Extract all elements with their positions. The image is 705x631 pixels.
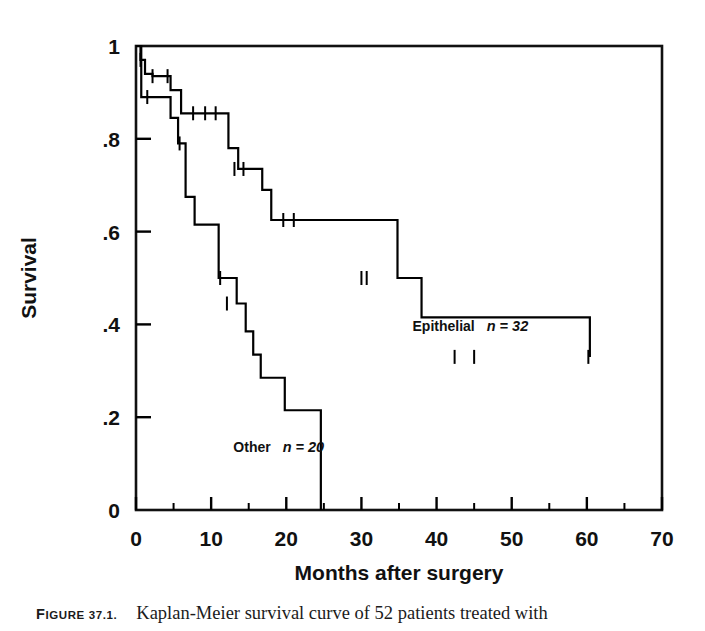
series-layer xyxy=(136,46,590,510)
y-tick-label-0p2: .2 xyxy=(102,406,120,429)
x-tick-label-0: 0 xyxy=(130,527,142,550)
x-tick-label-10: 10 xyxy=(199,527,222,550)
series-annotation-name: Epithelial xyxy=(413,318,475,334)
annotation-other: Othern = 20 xyxy=(233,439,324,455)
x-axis-tick-labels: 010203040506070 xyxy=(130,527,674,550)
series-line-epithelial xyxy=(136,46,590,357)
x-tick-label-40: 40 xyxy=(425,527,448,550)
series-annotation-text-other: Othern = 20 xyxy=(233,439,324,455)
x-tick-label-70: 70 xyxy=(650,527,673,550)
figure-caption: FIGURE 37.1. Kaplan-Meier survival curve… xyxy=(0,596,705,631)
y-axis-ticks xyxy=(136,139,151,417)
y-axis-tick-labels: 0.2.4.6.81 xyxy=(102,35,120,522)
series-annotation-n: n = 20 xyxy=(283,439,325,455)
x-tick-label-30: 30 xyxy=(350,527,373,550)
figure-container: 010203040506070 0.2.4.6.81 Epithelialn =… xyxy=(0,0,705,631)
figure-caption-text: Kaplan-Meier survival curve of 52 patien… xyxy=(136,603,547,624)
series-annotation-n: n = 32 xyxy=(487,318,529,334)
y-tick-label-0p8: .8 xyxy=(102,128,120,151)
x-axis-title: Months after surgery xyxy=(295,561,504,584)
series-epithelial xyxy=(136,46,590,364)
y-tick-label-0: 0 xyxy=(108,499,120,522)
series-annotations: Epithelialn = 32Othern = 20 xyxy=(233,318,528,455)
y-tick-label-1: 1 xyxy=(108,35,120,58)
x-tick-label-20: 20 xyxy=(275,527,298,550)
y-axis-title: Survival xyxy=(17,237,40,319)
series-annotation-name: Other xyxy=(233,439,271,455)
x-tick-label-50: 50 xyxy=(500,527,523,550)
series-annotation-text-epithelial: Epithelialn = 32 xyxy=(413,318,529,334)
x-tick-label-60: 60 xyxy=(575,527,598,550)
y-tick-label-0p6: .6 xyxy=(102,221,120,244)
y-tick-label-0p4: .4 xyxy=(102,313,120,336)
annotation-epithelial: Epithelialn = 32 xyxy=(413,318,529,334)
kaplan-meier-chart: 010203040506070 0.2.4.6.81 Epithelialn =… xyxy=(0,0,705,631)
figure-caption-label-rest: IGURE 37.1. xyxy=(45,609,117,621)
figure-caption-label: FIGURE 37.1. xyxy=(36,606,117,622)
